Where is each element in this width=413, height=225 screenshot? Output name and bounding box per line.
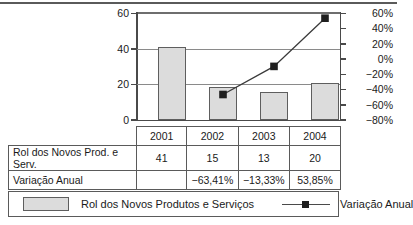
variation-line-path — [223, 18, 325, 94]
chart-legend: Rol dos Novos Produtos e Serviços Variaç… — [8, 191, 339, 217]
rol-2001: 41 — [137, 146, 187, 171]
table-header-2004: 2004 — [289, 127, 340, 146]
legend-square-marker-icon — [302, 201, 309, 208]
legend-line-symbol — [282, 198, 330, 210]
variacao-2002: −63,41% — [187, 171, 238, 190]
variacao-2004: 53,85% — [289, 171, 340, 190]
data-table: 2001 2002 2003 2004 Rol dos Novos Prod. … — [8, 126, 341, 190]
variation-marker-2002 — [219, 91, 227, 99]
table-row: Variação Anual −63,41% −13,33% 53,85% — [9, 171, 341, 190]
table-row-label-rol: Rol dos Novos Prod. e Serv. — [9, 146, 137, 171]
rol-2002: 15 — [187, 146, 238, 171]
table-header-2002: 2002 — [187, 127, 238, 146]
variation-marker-2003 — [270, 63, 278, 71]
rol-2003: 13 — [238, 146, 289, 171]
variation-line-series — [0, 0, 397, 128]
legend-line-label: Variação Anual — [340, 198, 413, 210]
table-row-label-variacao: Variação Anual — [9, 171, 137, 190]
table-row: Rol dos Novos Prod. e Serv. 41 15 13 20 — [9, 146, 341, 171]
table-header-corner — [9, 127, 137, 146]
variacao-2001 — [137, 171, 187, 190]
variation-marker-2004 — [321, 14, 329, 22]
rol-2004: 20 — [289, 146, 340, 171]
table-header-2001: 2001 — [137, 127, 187, 146]
variacao-2003: −13,33% — [238, 171, 289, 190]
table-row-header: 2001 2002 2003 2004 — [9, 127, 341, 146]
legend-bar-label: Rol dos Novos Produtos e Serviços — [81, 198, 254, 210]
chart-plot-region: 60 40 20 0 60% 40% 20% 0% −20% −40% −60%… — [0, 0, 397, 128]
legend-bar-swatch — [23, 197, 69, 211]
table-header-2003: 2003 — [238, 127, 289, 146]
